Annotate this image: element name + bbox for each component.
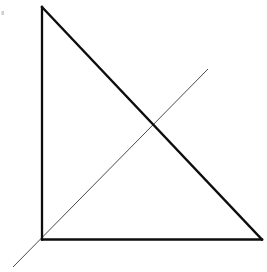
- canvas-background: [0, 0, 267, 272]
- geometry-figure-svg: [0, 0, 267, 272]
- corner-speck-artifact: [2, 11, 5, 15]
- figure-canvas: [0, 0, 267, 272]
